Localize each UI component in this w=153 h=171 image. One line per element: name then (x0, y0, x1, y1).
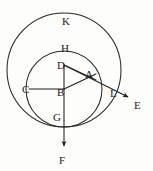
point-label-E: E (134, 100, 141, 111)
ray-to-e (64, 65, 128, 97)
point-label-C: C (22, 84, 29, 95)
point-label-G: G (53, 112, 61, 123)
point-label-D: D (57, 60, 65, 71)
geometry-figure: K H D A C B L E G F (0, 0, 153, 171)
point-label-B: B (57, 87, 64, 98)
point-label-A: A (85, 69, 93, 80)
point-label-H: H (61, 43, 69, 54)
point-label-K: K (62, 16, 70, 27)
point-label-F: F (59, 155, 65, 166)
rays-group (64, 65, 128, 146)
point-label-L: L (110, 88, 117, 99)
